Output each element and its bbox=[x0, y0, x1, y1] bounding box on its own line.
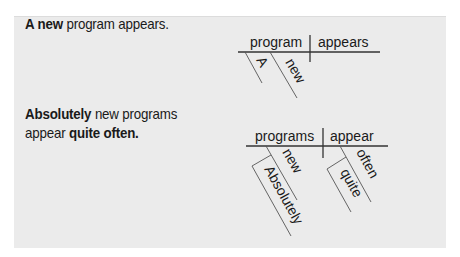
diagram-1: program appears A new bbox=[238, 34, 380, 98]
diagram-1-modifier-new: new bbox=[282, 56, 309, 87]
diagram-2: programs appear new Absolutely often qui… bbox=[246, 128, 388, 236]
diagram-1-verb: appears bbox=[318, 34, 369, 50]
diagram-2-modifier-new: new bbox=[279, 146, 306, 177]
diagram-2-subject: programs bbox=[255, 128, 314, 144]
diagram-1-subject: program bbox=[250, 34, 302, 50]
diagram-1-modifier-a: A bbox=[253, 54, 272, 71]
diagram-2-verb: appear bbox=[330, 128, 374, 144]
sentence-diagrams: program appears A new programs appear ne… bbox=[0, 0, 460, 257]
